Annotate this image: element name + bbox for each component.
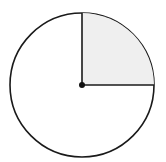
shaded-quadrant bbox=[82, 13, 154, 85]
center-point bbox=[79, 82, 85, 88]
circle-diagram bbox=[0, 0, 166, 162]
